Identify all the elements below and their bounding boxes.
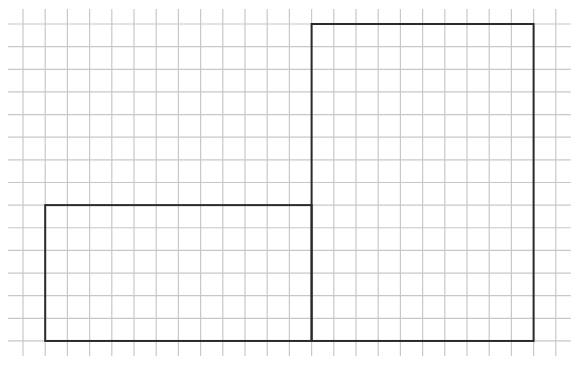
grid-lines — [8, 9, 571, 356]
grid-diagram — [0, 0, 573, 365]
